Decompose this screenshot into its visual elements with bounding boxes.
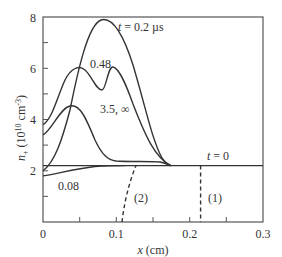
- y-ticks: [43, 43, 48, 197]
- x-ticks: [80, 217, 227, 222]
- x-axis-title: x (cm): [137, 243, 169, 257]
- y-tick-2: 2: [30, 164, 36, 178]
- label-t35-inf: 3.5, ∞: [100, 102, 130, 116]
- y-tick-8: 8: [30, 11, 36, 25]
- label-t048: 0.48: [90, 57, 111, 71]
- curve-t02: [43, 20, 171, 171]
- x-tick-0.1: 0.1: [109, 227, 124, 241]
- label-line-1: (1): [208, 191, 222, 205]
- x-tick-0.2: 0.2: [182, 227, 197, 241]
- y-axis-title: n+ (1010 cm-3): [14, 95, 30, 161]
- label-t008: 0.08: [58, 179, 79, 193]
- curve-t008: [43, 166, 125, 176]
- label-t02: t = 0.2 µs: [118, 20, 164, 34]
- label-t0: t = 0: [207, 149, 229, 163]
- x-tick-0.3: 0.3: [256, 227, 271, 241]
- x-tick-0: 0: [40, 227, 46, 241]
- curve-t048: [43, 67, 171, 166]
- density-profile-chart: 2 4 6 8 0 0.1 0.2 0.3 x (cm) n+ (1010 cm…: [0, 0, 282, 257]
- label-line-2: (2): [134, 191, 148, 205]
- y-tick-4: 4: [30, 113, 36, 127]
- y-tick-6: 6: [30, 62, 36, 76]
